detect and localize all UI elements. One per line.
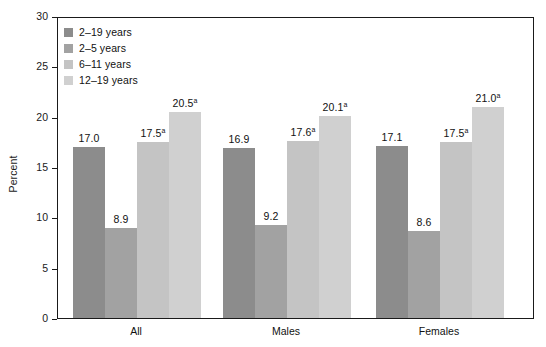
legend-swatch-icon [64, 76, 73, 85]
bar-value-label: 17.5a [141, 127, 166, 139]
bar-value-label: 20.5a [173, 97, 198, 109]
y-axis-tick-label: 25 [36, 60, 48, 72]
legend-item[interactable]: 12–19 years [64, 73, 138, 87]
legend-label: 2–19 years [79, 26, 132, 38]
y-axis-tick-label: 10 [36, 211, 48, 223]
bar-value-label: 20.1a [323, 101, 348, 113]
footnote-marker: a [193, 96, 197, 103]
footnote-marker: a [311, 125, 315, 132]
bar-value-label: 8.6 [417, 216, 432, 228]
bar[interactable]: 8.6 [408, 231, 440, 318]
legend-label: 2–5 years [79, 42, 126, 54]
bar[interactable]: 21.0a [472, 107, 504, 318]
legend-swatch-icon [64, 44, 73, 53]
bar-value-label: 17.5a [444, 127, 469, 139]
footnote-marker: a [496, 91, 500, 98]
bar[interactable]: 17.5a [440, 142, 472, 318]
bar[interactable]: 17.1 [376, 146, 408, 318]
bar-value-label: 21.0a [476, 92, 501, 104]
y-axis: 051015202530 [0, 0, 57, 347]
footnote-marker: a [464, 126, 468, 133]
x-axis-group-label: All [130, 325, 142, 337]
plot-area: 2–19 years2–5 years6–11 years12–19 years… [57, 17, 534, 319]
legend-item[interactable]: 2–19 years [64, 25, 138, 39]
bar[interactable]: 17.6a [287, 141, 319, 318]
bar[interactable]: 17.0 [73, 147, 105, 318]
bar-value-label: 17.0 [79, 132, 100, 144]
legend-label: 6–11 years [79, 58, 131, 70]
bar-value-label: 16.9 [229, 133, 250, 145]
plot-inner: 2–19 years2–5 years6–11 years12–19 years… [58, 18, 533, 318]
bar-chart: Percent 051015202530 2–19 years2–5 years… [0, 0, 546, 347]
y-axis-tick-label: 30 [36, 10, 48, 22]
legend-item[interactable]: 2–5 years [64, 41, 138, 55]
bar[interactable]: 8.9 [105, 228, 137, 318]
bar[interactable]: 16.9 [223, 148, 255, 318]
x-axis-group-label: Females [419, 325, 459, 337]
bar[interactable]: 20.5a [169, 112, 201, 318]
bar-value-label: 17.6a [291, 126, 316, 138]
y-axis-tick-label: 5 [42, 262, 48, 274]
footnote-marker: a [161, 126, 165, 133]
legend-item[interactable]: 6–11 years [64, 57, 138, 71]
x-axis-labels: AllMalesFemales [57, 322, 534, 347]
y-axis-tick-label: 15 [36, 161, 48, 173]
bar-value-label: 8.9 [114, 213, 129, 225]
bar-value-label: 17.1 [382, 131, 403, 143]
y-axis-tick-label: 0 [42, 312, 48, 324]
y-axis-tick-label: 20 [36, 111, 48, 123]
bar[interactable]: 9.2 [255, 225, 287, 318]
x-axis-group-label: Males [272, 325, 300, 337]
footnote-marker: a [343, 100, 347, 107]
y-axis-tick-mark [52, 319, 57, 320]
legend-swatch-icon [64, 60, 73, 69]
legend-label: 12–19 years [79, 74, 138, 86]
bar-value-label: 9.2 [264, 210, 279, 222]
legend: 2–19 years2–5 years6–11 years12–19 years [64, 25, 138, 87]
legend-swatch-icon [64, 28, 73, 37]
bar[interactable]: 17.5a [137, 142, 169, 318]
bar[interactable]: 20.1a [319, 116, 351, 318]
